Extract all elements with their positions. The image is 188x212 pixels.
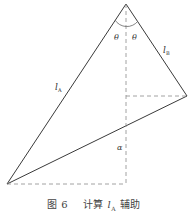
caption-suffix: 辅助	[120, 199, 141, 210]
caption-var-sub: A	[111, 205, 116, 212]
caption-prefix: 图 6	[47, 199, 68, 210]
line-l-a	[7, 4, 126, 184]
alpha-label: α	[117, 143, 123, 152]
line-base	[7, 96, 187, 184]
theta-left-label: θ	[114, 33, 119, 42]
l-b-label: lB	[163, 45, 170, 56]
figure-caption: 图 6 计算 lA 辅助	[0, 196, 188, 212]
line-l-b	[126, 4, 187, 96]
diagram-canvas: θ θ lB lA α	[0, 0, 188, 212]
caption-text: 计算	[83, 199, 104, 210]
angle-arc	[115, 20, 138, 27]
theta-right-label: θ	[132, 33, 137, 42]
l-a-label: lA	[55, 82, 62, 93]
